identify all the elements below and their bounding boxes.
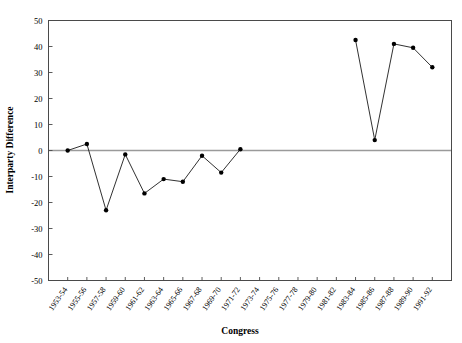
y-tick-label: 0	[38, 146, 42, 156]
data-series-lines	[68, 40, 433, 210]
data-point	[373, 138, 377, 142]
y-tick-label: -40	[31, 250, 42, 260]
interparty-difference-line-chart: 50403020100-10-20-30-40-50 1953-541955-5…	[0, 0, 462, 343]
data-point	[200, 154, 204, 158]
y-tick-label: 50	[34, 16, 43, 26]
data-point	[85, 142, 89, 146]
data-point	[142, 191, 146, 195]
y-tick-label: -20	[31, 198, 42, 208]
y-tick-label: 40	[34, 42, 43, 52]
y-axis-ticks	[49, 21, 53, 281]
y-tick-label: 20	[34, 94, 43, 104]
x-axis-tick-labels: 1953-541955-561957-581959-601961-621963-…	[47, 285, 434, 312]
y-axis-title: Interparty Difference	[5, 106, 15, 193]
x-axis-ticks	[68, 277, 433, 281]
x-tick-label: 1991-92	[411, 285, 434, 312]
data-point	[65, 148, 69, 152]
data-point	[353, 38, 357, 42]
data-point	[411, 46, 415, 50]
y-tick-label: -10	[31, 172, 42, 182]
series-segment	[68, 144, 241, 210]
data-point	[104, 208, 108, 212]
series-segment	[356, 40, 433, 140]
chart-container: 50403020100-10-20-30-40-50 1953-541955-5…	[0, 0, 462, 343]
y-tick-label: 10	[34, 120, 43, 130]
data-point	[161, 177, 165, 181]
x-axis-title: Congress	[221, 326, 259, 336]
data-point	[181, 180, 185, 184]
y-tick-label: -30	[31, 224, 42, 234]
y-axis-tick-labels: 50403020100-10-20-30-40-50	[31, 16, 42, 286]
y-tick-label: 30	[34, 68, 43, 78]
data-point	[392, 42, 396, 46]
data-point	[123, 152, 127, 156]
data-point	[219, 170, 223, 174]
data-series-markers	[65, 38, 434, 213]
data-point	[238, 147, 242, 151]
data-point	[430, 65, 434, 69]
y-tick-label: -50	[31, 276, 42, 286]
